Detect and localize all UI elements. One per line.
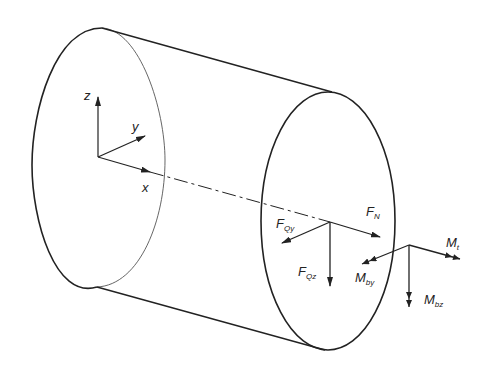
force-fqy-label: FQy [276, 217, 294, 233]
moment-mt-symbol: M [446, 235, 457, 250]
moment-mt-subscript: t [457, 243, 459, 252]
moment-mbz-subscript: bz [435, 300, 443, 309]
force-fn-label: FN [366, 205, 380, 221]
moment-mt-label: Mt [446, 236, 459, 252]
force-fqy-subscript: Qy [284, 224, 294, 233]
axis-y-label: y [132, 120, 139, 133]
force-fn-subscript: N [374, 212, 380, 221]
force-fqy-symbol: F [276, 216, 284, 231]
left-end-ellipse [32, 28, 165, 288]
moment-mby-symbol: M [355, 270, 366, 285]
moment-mbz-label: Mbz [424, 293, 443, 309]
diagram-canvas: z y x FN FQy FQz Mt Mby Mbz [0, 0, 485, 374]
top-silhouette [102, 28, 332, 92]
moment-mby-label: Mby [355, 271, 374, 287]
moment-mby-subscript: by [366, 278, 374, 287]
moment-vectors [362, 245, 460, 307]
force-fqz-label: FQz [298, 265, 316, 281]
axis-z-label: z [84, 89, 91, 102]
bottom-silhouette [97, 287, 325, 350]
force-fn-symbol: F [366, 204, 374, 219]
force-fqz-symbol: F [298, 264, 306, 279]
center-axis-line [150, 172, 330, 222]
force-fqz-subscript: Qz [306, 272, 316, 281]
cylinder-drawing [0, 0, 485, 374]
axis-x-label: x [142, 181, 149, 194]
moment-mbz-symbol: M [424, 292, 435, 307]
axis-system [98, 97, 150, 172]
